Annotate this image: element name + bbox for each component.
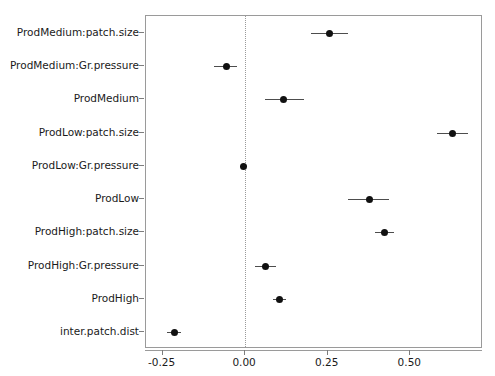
y-axis-tick-label: ProdMedium:Gr.pressure [10,60,139,71]
estimate-point [262,263,269,270]
x-axis-tick-label: -0.25 [148,357,175,368]
zero-reference-line [245,16,246,347]
y-axis-tick [139,165,144,166]
plot-panel [145,15,482,348]
y-axis-tick [139,132,144,133]
y-axis-tick-label: ProdLow:Gr.pressure [32,160,139,171]
y-axis-tick-label: ProdHigh:patch.size [35,226,139,237]
estimate-point [276,296,283,303]
y-axis-tick [139,65,144,66]
y-axis-tick [139,198,144,199]
coefficient-plot-figure: ProdMedium:patch.sizeProdMedium:Gr.press… [0,0,495,376]
estimate-point [171,329,178,336]
y-axis-tick-label: ProdLow:patch.size [39,126,139,137]
estimate-point [449,130,456,137]
x-axis-tick [162,350,163,355]
y-axis-tick [139,265,144,266]
y-axis-labels: ProdMedium:patch.sizeProdMedium:Gr.press… [0,0,139,376]
estimate-point [240,163,247,170]
x-axis-tick-label: 0.25 [315,357,338,368]
y-axis-tick [139,331,144,332]
y-axis-tick-label: ProdMedium [74,93,139,104]
estimate-point [223,63,230,70]
x-axis-tick-label: 0.00 [232,357,255,368]
y-axis-tick-label: ProdMedium:patch.size [17,26,139,37]
y-axis-tick-label: ProdLow [95,193,139,204]
x-axis-tick [327,350,328,355]
y-axis-tick [139,231,144,232]
x-axis-tick [244,350,245,355]
estimate-point [381,229,388,236]
y-axis-tick-label: inter.patch.dist [60,326,139,337]
estimate-point [280,96,287,103]
estimate-point [326,30,333,37]
x-axis-tick-label: 0.50 [398,357,421,368]
x-axis-line [145,350,482,351]
x-axis-tick [409,350,410,355]
y-axis-tick [139,32,144,33]
y-axis-tick-label: ProdHigh:Gr.pressure [28,260,139,271]
y-axis-tick-label: ProdHigh [92,293,139,304]
y-axis-tick [139,298,144,299]
y-axis-tick [139,98,144,99]
estimate-point [366,196,373,203]
